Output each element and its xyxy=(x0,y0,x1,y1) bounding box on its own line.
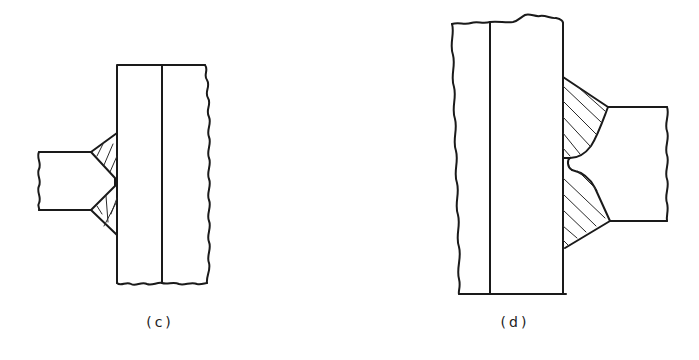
panel-c-attached-plate xyxy=(38,152,115,210)
panel-c-web-plate xyxy=(117,65,210,285)
panel-d-web-plate xyxy=(452,14,566,294)
panel-d xyxy=(452,14,668,294)
panel-d-upper-weld xyxy=(563,77,608,158)
weld-diagram xyxy=(0,0,699,360)
panel-c xyxy=(38,65,210,285)
panel-c-label: (c) xyxy=(146,314,174,330)
panel-d-root-notch xyxy=(568,158,572,170)
panel-d-lower-weld xyxy=(563,170,610,248)
panel-c-lower-weld xyxy=(91,196,117,235)
panel-d-label: (d) xyxy=(501,314,530,330)
panel-d-attached-plate xyxy=(608,107,668,221)
